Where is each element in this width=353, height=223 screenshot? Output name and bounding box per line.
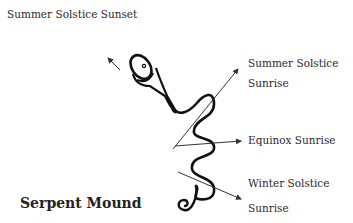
serpent-head [126, 51, 172, 108]
winter-sunrise-label-line1: Winter Solstice [248, 178, 329, 189]
serpent-eye-icon [142, 64, 145, 67]
winter-sunrise-label-line2: Sunrise [248, 203, 289, 214]
summer-sunrise-label-line1: Summer Solstice [248, 58, 338, 69]
serpent-diagram [0, 0, 353, 223]
summer-sunrise-label-line2: Sunrise [248, 78, 289, 89]
summer-sunset-label: Summer Solstice Sunset [7, 9, 137, 20]
summer-sunrise-arrow [173, 69, 238, 149]
serpent-tail-spiral [179, 186, 197, 210]
diagram-title: Serpent Mound [20, 196, 142, 210]
winter-sunrise-arrow [178, 172, 241, 199]
equinox-sunrise-arrow [175, 141, 241, 146]
equinox-sunrise-label: Equinox Sunrise [248, 135, 336, 146]
summer-sunset-arrow [108, 58, 120, 70]
